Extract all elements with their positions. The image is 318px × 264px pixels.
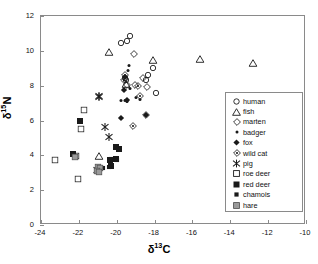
legend-label: pig: [243, 159, 253, 168]
y-tick-label: 8: [0, 80, 34, 89]
legend-label: red deer: [243, 180, 270, 189]
x-tick-label: -24: [35, 228, 46, 237]
legend-item-chamois[interactable]: chamois: [230, 190, 302, 200]
data-point-chamois: [114, 157, 119, 162]
open-diamond-dot-icon: [230, 149, 243, 157]
data-point-fish: [196, 55, 205, 63]
y-tick: [40, 51, 44, 52]
x-tick-label: -12: [262, 228, 273, 237]
data-point-roe-deer: [77, 126, 84, 133]
data-point-roe-deer: [52, 156, 59, 163]
scatter-chart: δ15N δ13C humanfishmartenbadgerfoxwild c…: [0, 0, 318, 264]
legend-label: fish: [243, 107, 254, 116]
y-tick: [40, 16, 44, 17]
legend-item-roe-deer[interactable]: roe deer: [230, 169, 302, 179]
data-point-chamois: [107, 164, 112, 169]
legend: humanfishmartenbadgerfoxwild catpigroe d…: [225, 92, 303, 212]
data-point-hare: [95, 168, 102, 175]
legend-item-badger[interactable]: badger: [230, 127, 302, 137]
y-tick: [40, 190, 44, 191]
data-point-pig: [101, 122, 110, 131]
legend-item-marten[interactable]: marten: [230, 117, 302, 127]
data-point-red-deer: [76, 118, 83, 125]
legend-label: fox: [243, 138, 253, 147]
x-tick-label: -16: [186, 228, 197, 237]
open-triangle-icon: [230, 108, 243, 116]
x-tick: [155, 220, 156, 224]
data-point-roe-deer: [80, 107, 87, 114]
gray-square-icon: [230, 202, 243, 209]
legend-item-fox[interactable]: fox: [230, 138, 302, 148]
legend-item-pig[interactable]: pig: [230, 158, 302, 168]
x-axis-title-text: δ13C: [148, 243, 171, 255]
data-point-chamois: [109, 156, 114, 161]
data-point-fish: [94, 152, 103, 160]
x-tick: [230, 220, 231, 224]
small-dot-icon: [230, 130, 243, 134]
open-square-icon: [230, 170, 243, 177]
legend-label: human: [243, 97, 265, 106]
data-point-wild-cat: [136, 92, 144, 100]
data-point-fox: [117, 114, 124, 121]
data-point-pig: [105, 133, 114, 142]
legend-label: roe deer: [243, 169, 270, 178]
x-tick-label: -10: [300, 228, 311, 237]
data-point-badger: [128, 86, 132, 91]
x-tick-label: -22: [72, 228, 83, 237]
data-point-human: [152, 89, 159, 96]
legend-item-red-deer[interactable]: red deer: [230, 179, 302, 189]
legend-item-human[interactable]: human: [230, 96, 302, 106]
legend-label: wild cat: [243, 149, 267, 158]
data-point-wild-cat: [120, 76, 128, 84]
data-point-fox: [124, 97, 131, 104]
data-point-human: [126, 33, 133, 40]
small-filled-square-icon: [230, 192, 243, 197]
y-tick-label: 6: [0, 115, 34, 124]
x-tick: [306, 220, 307, 224]
data-point-roe-deer: [74, 175, 81, 182]
data-point-fish: [148, 56, 157, 64]
y-tick-label: 10: [0, 45, 34, 54]
y-tick: [40, 155, 44, 156]
x-tick-label: -18: [148, 228, 159, 237]
y-tick-label: 12: [0, 11, 34, 20]
x-tick: [268, 220, 269, 224]
x-axis-title: δ13C: [0, 241, 318, 255]
x-tick-label: -20: [110, 228, 121, 237]
legend-label: hare: [243, 201, 258, 210]
data-point-human: [149, 65, 156, 72]
data-point-marten: [139, 74, 147, 82]
data-point-marten: [143, 83, 151, 91]
filled-square-icon: [230, 181, 243, 188]
y-tick: [40, 86, 44, 87]
x-tick-label: -14: [224, 228, 235, 237]
legend-label: chamois: [243, 190, 270, 199]
data-point-wild-cat: [129, 122, 137, 130]
data-point-fox: [121, 87, 128, 94]
y-tick-label: 4: [0, 150, 34, 159]
data-point-pig: [94, 92, 103, 101]
data-point-wild-cat: [134, 82, 142, 90]
data-point-fish: [105, 48, 114, 56]
legend-label: marten: [243, 117, 266, 126]
legend-item-hare[interactable]: hare: [230, 200, 302, 210]
data-point-red-deer: [112, 143, 119, 150]
data-point-fox: [143, 112, 150, 119]
y-tick: [40, 121, 44, 122]
legend-label: badger: [243, 128, 266, 137]
y-tick-label: 2: [0, 185, 34, 194]
data-point-hare: [72, 154, 79, 161]
data-point-marten: [130, 50, 138, 58]
y-tick: [40, 225, 44, 226]
legend-item-fish[interactable]: fish: [230, 106, 302, 116]
open-circle-icon: [230, 98, 243, 105]
legend-item-wild-cat[interactable]: wild cat: [230, 148, 302, 158]
filled-diamond-icon: [230, 139, 243, 146]
x-tick: [79, 220, 80, 224]
data-point-fish: [249, 59, 258, 67]
y-tick-label: 0: [0, 220, 34, 229]
open-diamond-thin-icon: [230, 118, 243, 126]
x-tick: [192, 220, 193, 224]
x-tick: [117, 220, 118, 224]
asterisk-icon: [230, 159, 243, 168]
